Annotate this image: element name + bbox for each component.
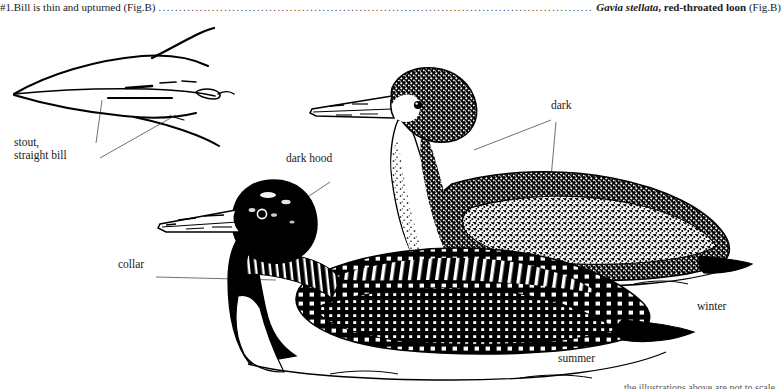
loon-drawing-svg (0, 12, 781, 382)
bill-profile-sketch (14, 28, 234, 146)
label-stout-straight-bill: stout, straight bill (14, 136, 67, 162)
label-winter-plumage: winter (697, 300, 726, 313)
summer-loon-tail (618, 320, 695, 342)
leader-dark-a (474, 120, 551, 150)
winter-loon-tail (699, 256, 752, 273)
figure-plate: #1.Bill is thin and upturned (Fig.B) ...… (0, 0, 781, 389)
label-dark: dark (551, 99, 571, 112)
winter-loon-eye (414, 101, 422, 109)
loon-illustration (0, 12, 781, 382)
label-dark-hood: dark hood (286, 152, 332, 165)
summer-loon-breast (236, 296, 284, 373)
leader-stout-lower (100, 115, 176, 158)
label-collar: collar (118, 258, 144, 271)
summer-loon-waterline (248, 352, 666, 380)
leader-stout-upper (96, 100, 102, 143)
bottom-caption: the illustrations above are not to scale (0, 382, 781, 389)
label-summer-plumage: summer (558, 352, 595, 365)
leader-dark-hood (306, 182, 330, 198)
summer-loon-hood (232, 180, 317, 263)
